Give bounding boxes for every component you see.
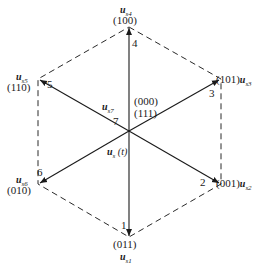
- vector-3-label: (101)us3: [216, 74, 252, 90]
- vector-5-code: (110): [7, 82, 30, 93]
- vector-4-code: (100): [113, 15, 137, 26]
- vector-5-index: 5: [47, 79, 53, 90]
- vector-4-index: 4: [132, 38, 138, 49]
- vector-6-code: (010): [7, 185, 31, 196]
- vector-2: [129, 131, 219, 183]
- vector-6-index: 6: [37, 167, 43, 178]
- state-vector-label: us (t): [107, 146, 127, 162]
- vector-2-label: (001)us2: [216, 178, 252, 194]
- vector-1-code: (011): [113, 239, 136, 250]
- hexagon-diagram: [0, 0, 257, 268]
- vector-1-index: 1: [121, 220, 127, 231]
- vector-1-name: us1: [120, 251, 132, 267]
- vector-3-index: 3: [209, 88, 215, 99]
- zero-vector-code-111: (111): [134, 108, 157, 119]
- zero-vector-code-000: (000): [134, 96, 158, 107]
- vector-2-index: 2: [200, 177, 206, 188]
- zero-vector-index: 7: [113, 116, 119, 127]
